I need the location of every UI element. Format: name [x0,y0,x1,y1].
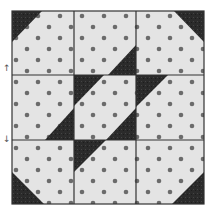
quilt-block-diagram [0,0,205,216]
light-fabric-background [12,11,204,204]
up-arrow-icon: ↑ [3,64,9,73]
down-arrow-icon: ↓ [3,135,9,144]
